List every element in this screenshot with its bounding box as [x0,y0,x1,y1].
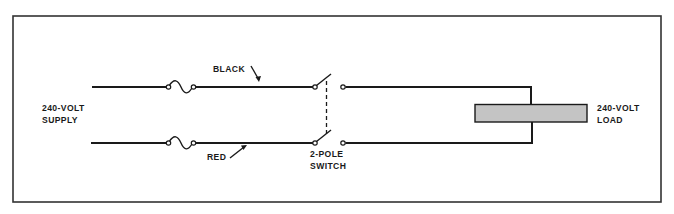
fuse-icon-red [166,137,195,149]
wiring-diagram: 240-VOLT SUPPLY BLACK RED [0,0,674,214]
black-wire [92,81,313,93]
red-wire [91,137,313,149]
black-wire-label: BLACK [213,64,245,74]
switch-label-line1: 2-POLE [310,149,343,159]
two-pole-switch [313,74,345,145]
fuse-icon-black [166,81,195,93]
supply-label-line2: SUPPLY [42,115,78,125]
red-wire-label: RED [207,152,226,162]
load-label-line1: 240-VOLT [597,103,640,113]
arrow-icon-red [230,145,247,158]
load-label-line2: LOAD [597,115,623,125]
supply-label-line1: 240-VOLT [42,103,85,113]
switch-label-line2: SWITCH [310,161,346,171]
load-element [475,105,587,123]
arrow-icon-black [251,66,261,82]
